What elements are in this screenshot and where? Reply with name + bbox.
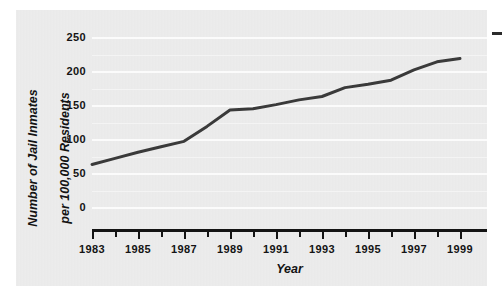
dash-mark-icon xyxy=(492,32,502,35)
chart-plot-panel xyxy=(16,10,487,286)
chart-figure: 050100150200250 Number of Jail Inmates p… xyxy=(0,0,502,292)
